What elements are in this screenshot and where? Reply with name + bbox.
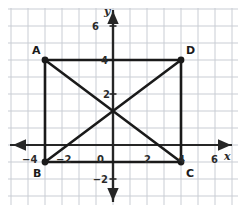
vertex-point-D xyxy=(178,57,185,64)
vertex-label-C: C xyxy=(186,167,194,180)
y-tick-label-2: 2 xyxy=(103,89,110,100)
vertex-label-D: D xyxy=(186,44,195,57)
y-tick-label-4: 4 xyxy=(101,55,108,66)
vertex-label-A: A xyxy=(32,44,41,57)
x-tick-label-4: 4 xyxy=(178,154,185,165)
x-tick-label-0: 0 xyxy=(97,154,104,165)
vertex-point-B xyxy=(42,159,49,166)
x-tick-label-2: 2 xyxy=(144,154,151,165)
vertex-point-A xyxy=(42,57,49,64)
x-tick-label-6: 6 xyxy=(211,154,218,165)
y-tick-label-neg2: −2 xyxy=(93,174,108,185)
x-tick-label-neg4: −4 xyxy=(22,154,37,165)
x-tick-label-neg2: −2 xyxy=(56,154,71,165)
graph-figure: A B C D −4 −2 0 2 4 6 6 4 2 −2 y x xyxy=(0,0,242,209)
y-tick-label-6: 6 xyxy=(92,21,99,32)
vertex-label-B: B xyxy=(33,167,41,180)
x-axis-name: x xyxy=(223,150,231,163)
coordinate-plane-svg: A B C D −4 −2 0 2 4 6 6 4 2 −2 y x xyxy=(0,0,242,209)
